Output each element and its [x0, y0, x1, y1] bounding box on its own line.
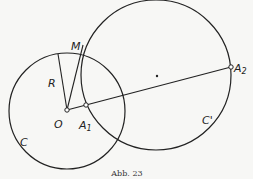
point-a1 — [84, 103, 88, 107]
label-a1-sub: 1 — [87, 124, 92, 133]
label-a2-sub: 2 — [242, 67, 247, 76]
geometry-figure: M R O A1 A2 C C' Abb. 23 — [0, 0, 253, 179]
point-o — [65, 108, 69, 112]
point-a2 — [229, 65, 233, 69]
label-o: O — [54, 118, 63, 131]
center-dot-c-prime — [156, 75, 158, 77]
figure-caption: Abb. 23 — [110, 169, 142, 178]
segment-o-a2 — [67, 67, 231, 110]
radius-r — [58, 54, 67, 110]
label-a2-main: A — [233, 62, 242, 75]
circle-c-prime — [81, 0, 231, 150]
label-m: M — [71, 40, 81, 53]
label-c: C — [20, 136, 28, 149]
label-a2: A2 — [233, 62, 247, 76]
label-a1: A1 — [78, 119, 92, 133]
label-a1-main: A — [78, 119, 87, 132]
label-c-prime: C' — [202, 114, 213, 127]
label-r: R — [48, 77, 56, 90]
